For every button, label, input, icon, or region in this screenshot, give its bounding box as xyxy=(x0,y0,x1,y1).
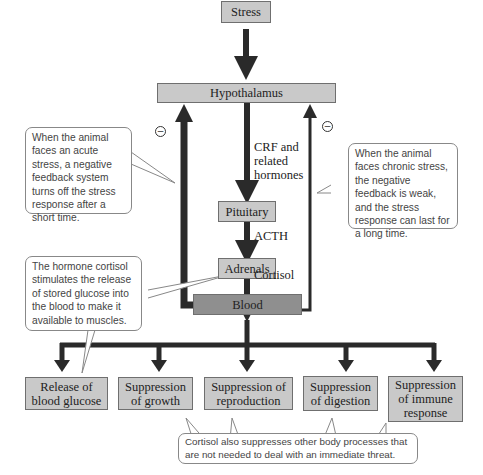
outcome-suppression-reproduction: Suppression of reproduction xyxy=(204,377,293,410)
outcome-release-glucose: Release of blood glucose xyxy=(25,377,108,410)
node-blood: Blood xyxy=(193,294,302,315)
outcome-suppression-digestion: Suppression of digestion xyxy=(303,376,378,411)
label-crf: CRF and related hormones xyxy=(254,140,304,182)
callout-chronic-stress: When the animal faces chronic stress, th… xyxy=(348,143,458,229)
node-hypothalamus: Hypothalamus xyxy=(157,83,336,103)
outcome-suppression-growth: Suppression of growth xyxy=(118,377,193,410)
feedback-loop-acute xyxy=(175,104,193,305)
stress-response-diagram: Stress Hypothalamus Pituitary Adrenals B… xyxy=(0,0,483,475)
node-stress: Stress xyxy=(221,1,271,23)
callout-glucose: The hormone cortisol stimulates the rele… xyxy=(25,256,142,331)
negative-feedback-icon-right: – xyxy=(322,121,333,132)
negative-feedback-icon-left: – xyxy=(155,126,166,137)
label-cortisol: Cortisol xyxy=(254,268,294,282)
callout-suppression: Cortisol also suppresses other body proc… xyxy=(178,433,418,464)
node-pituitary: Pituitary xyxy=(218,201,276,222)
label-acth: ACTH xyxy=(254,229,288,243)
outcome-suppression-immune: Suppression of immune response xyxy=(388,376,463,422)
callout-acute-stress: When the animal faces an acute stress, a… xyxy=(25,127,132,214)
feedback-loop-chronic xyxy=(302,104,317,310)
